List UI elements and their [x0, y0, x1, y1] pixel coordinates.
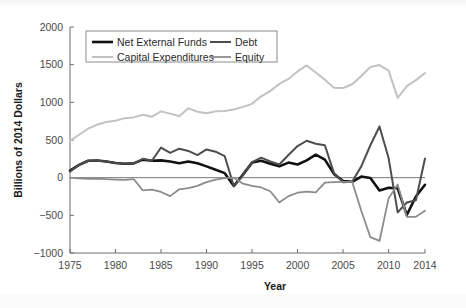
chart-figure: −1000−5000500100015002000 19751980198519…: [0, 9, 466, 297]
y-tick-label: −500: [39, 209, 63, 221]
y-tick-label: 2000: [40, 21, 64, 33]
legend-label-capital-expenditures: Capital Expenditures: [117, 51, 214, 63]
y-tick-label: 0: [57, 171, 63, 183]
y-tick-label: 1000: [40, 96, 64, 108]
figure-page: −1000−5000500100015002000 19751980198519…: [0, 0, 466, 308]
x-tick-label: 1985: [149, 259, 173, 271]
y-tick-label: −1000: [34, 247, 64, 259]
x-tick-label: 2010: [377, 259, 401, 271]
y-tick-label: 1500: [40, 58, 64, 70]
x-tick-label: 2005: [331, 259, 355, 271]
x-tick-label: 2000: [286, 259, 310, 271]
x-tick-label: 1990: [195, 259, 219, 271]
line-chart: −1000−5000500100015002000 19751980198519…: [0, 9, 466, 297]
x-tick-label: 1975: [58, 259, 82, 271]
legend-label-debt: Debt: [235, 36, 257, 48]
y-axis-ticks: −1000−5000500100015002000: [34, 21, 75, 259]
y-tick-label: 500: [45, 134, 63, 146]
x-axis-title: Year: [264, 280, 286, 292]
legend-label-equity: Equity: [235, 51, 265, 63]
x-tick-label: 1980: [104, 259, 128, 271]
y-axis-title: Billions of 2014 Dollars: [12, 82, 24, 198]
x-tick-label: 1995: [240, 259, 264, 271]
chart-legend[interactable]: Net External FundsDebtCapital Expenditur…: [86, 31, 277, 63]
legend-label-net-external-funds: Net External Funds: [117, 36, 207, 48]
page-top-text-bleed: [0, 0, 466, 9]
x-tick-label: 2014: [413, 259, 437, 271]
